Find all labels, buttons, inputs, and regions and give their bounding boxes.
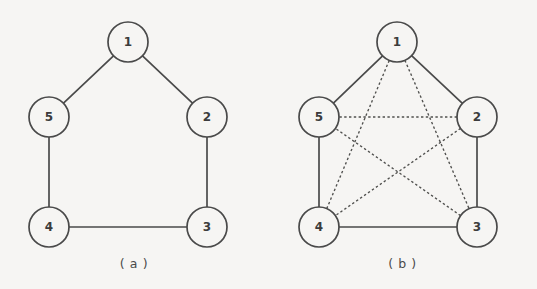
graph-node-2: 2 bbox=[457, 97, 497, 137]
graph-node-3: 3 bbox=[457, 207, 497, 247]
graph-node-5: 5 bbox=[29, 97, 69, 137]
dashed-edge-1-4 bbox=[327, 60, 389, 208]
node-label-1: 1 bbox=[393, 35, 401, 49]
node-label-4: 4 bbox=[45, 220, 53, 234]
graph-node-1: 1 bbox=[108, 22, 148, 62]
graph-node-1: 1 bbox=[377, 22, 417, 62]
graph-node-3: 3 bbox=[187, 207, 227, 247]
graph-node-2: 2 bbox=[187, 97, 227, 137]
solid-edge-1-5 bbox=[333, 56, 382, 103]
solid-edge-1-5 bbox=[64, 56, 114, 103]
node-label-1: 1 bbox=[124, 35, 132, 49]
node-label-5: 5 bbox=[315, 110, 323, 124]
solid-edge-1-2 bbox=[143, 56, 193, 103]
panel-caption-b: ( b ) bbox=[388, 256, 417, 271]
graph-node-5: 5 bbox=[299, 97, 339, 137]
figure-root: 12345( a ) 12345( b ) bbox=[0, 0, 537, 289]
solid-edge-1-2 bbox=[412, 56, 463, 104]
graph-node-4: 4 bbox=[299, 207, 339, 247]
node-label-3: 3 bbox=[203, 220, 211, 234]
node-label-3: 3 bbox=[473, 220, 481, 234]
node-label-2: 2 bbox=[473, 110, 481, 124]
node-label-5: 5 bbox=[45, 110, 53, 124]
dashed-edge-1-3 bbox=[405, 60, 469, 208]
graph-panel-a: 12345( a ) bbox=[0, 0, 268, 289]
panel-caption-a: ( a ) bbox=[120, 256, 148, 271]
node-label-4: 4 bbox=[315, 220, 323, 234]
graph-panel-b: 12345( b ) bbox=[268, 0, 537, 289]
graph-node-4: 4 bbox=[29, 207, 69, 247]
node-label-2: 2 bbox=[203, 110, 211, 124]
